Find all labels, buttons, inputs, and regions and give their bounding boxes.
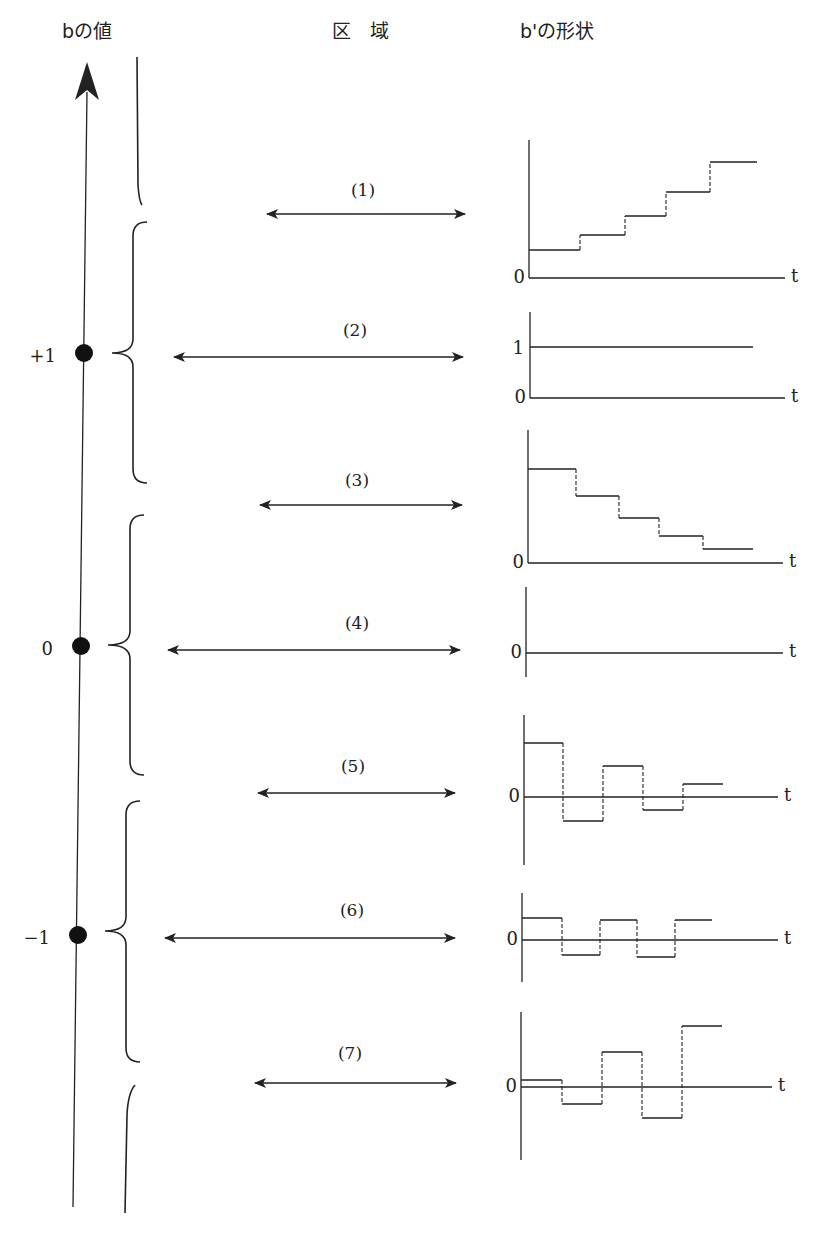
- chart-6: [522, 893, 778, 982]
- curly-brace: [125, 1085, 135, 1213]
- region-label: (4): [345, 613, 369, 633]
- region-label: (2): [343, 320, 367, 340]
- chart-zero-label: 0: [509, 785, 520, 806]
- response-charts: [521, 140, 785, 1160]
- chart-level-label: 1: [513, 337, 524, 358]
- diagram-canvas: [0, 0, 818, 1235]
- chart-t-label: t: [778, 1074, 785, 1095]
- b-value-axis: [69, 62, 99, 1207]
- region-label: (5): [341, 756, 365, 776]
- region-label: (1): [351, 180, 375, 200]
- chart-zero-label: 0: [511, 641, 522, 662]
- region-arrows: [165, 214, 465, 1083]
- chart-t-label: t: [791, 265, 798, 286]
- chart-t-label: t: [789, 640, 796, 661]
- chart-zero-label: 0: [514, 266, 525, 287]
- region-braces: [105, 57, 147, 1213]
- curly-brace: [112, 222, 147, 483]
- chart-5: [524, 715, 778, 865]
- chart-t-label: t: [789, 550, 796, 571]
- axis-point-dot: [75, 344, 93, 362]
- axis-point-dot: [69, 926, 87, 944]
- curly-brace: [105, 801, 140, 1062]
- region-label: (3): [345, 470, 369, 490]
- curly-brace: [137, 57, 142, 205]
- chart-zero-label: 0: [515, 386, 526, 407]
- axis-point-dot: [72, 637, 90, 655]
- axis-point-label: +1: [29, 345, 56, 366]
- chart-t-label: t: [791, 385, 798, 406]
- chart-3: [528, 430, 783, 563]
- chart-7: [521, 1012, 772, 1160]
- curly-brace: [108, 515, 144, 775]
- region-label: (7): [338, 1043, 362, 1063]
- chart-t-label: t: [784, 927, 791, 948]
- chart-zero-label: 0: [506, 1075, 517, 1096]
- chart-2: [530, 312, 785, 398]
- chart-1: [529, 140, 785, 278]
- chart-4: [526, 587, 783, 677]
- chart-t-label: t: [784, 784, 791, 805]
- axis-point-label: −1: [23, 927, 50, 948]
- chart-zero-label: 0: [513, 551, 524, 572]
- chart-zero-label: 0: [507, 928, 518, 949]
- region-label: (6): [340, 900, 364, 920]
- axis-point-label: 0: [42, 638, 53, 659]
